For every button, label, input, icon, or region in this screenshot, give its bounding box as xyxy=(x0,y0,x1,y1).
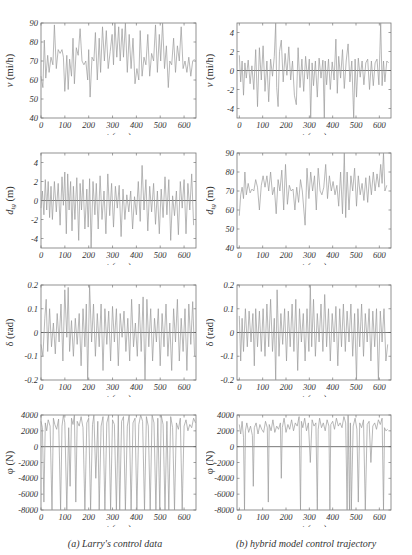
x-tick-label: 600 xyxy=(178,120,192,130)
y-tick-label: -4 xyxy=(31,234,39,244)
y-tick-label: 80 xyxy=(226,167,235,177)
y-tick-label: -8000 xyxy=(214,505,235,515)
x-tick-label: 500 xyxy=(350,250,364,260)
x-tick-label: 400 xyxy=(130,250,144,260)
data-series xyxy=(41,415,196,510)
chart-svg: -4-20240100200300400500600t (sec)dtg (m) xyxy=(0,130,206,265)
x-tick-label: 0 xyxy=(237,250,242,260)
y-axis-label: v (mi/h) xyxy=(206,53,216,87)
y-tick-label: 80 xyxy=(30,37,39,47)
chart-v-hybrid: -4-20240100200300400500600t (sec)v (mi/h… xyxy=(206,0,412,135)
x-tick-label: 500 xyxy=(350,120,364,130)
y-axis-label: δ (rad) xyxy=(4,318,16,346)
y-tick-label: -2000 xyxy=(18,458,39,468)
chart-svg: -0.2-0.100.10.20100200300400500600t (sec… xyxy=(206,262,412,397)
y-tick-label: 4 xyxy=(230,28,235,38)
x-tick-label: 100 xyxy=(58,120,72,130)
x-tick-label: 0 xyxy=(237,120,242,130)
x-tick-label: 600 xyxy=(373,512,387,522)
x-tick-label: 500 xyxy=(154,120,168,130)
x-tick-label: 200 xyxy=(280,382,294,392)
x-tick-label: 0 xyxy=(237,382,242,392)
y-tick-label: -0.1 xyxy=(221,351,234,361)
x-tick-label: 200 xyxy=(82,382,96,392)
x-axis-label: t (sec) xyxy=(106,523,131,527)
x-tick-label: 100 xyxy=(58,382,72,392)
data-series xyxy=(41,23,195,97)
x-tick-label: 0 xyxy=(39,382,44,392)
x-tick-label: 100 xyxy=(256,512,270,522)
chart-svg: 4050607080900100200300400500600t (sec)dt… xyxy=(206,130,412,265)
x-tick-label: 500 xyxy=(154,512,168,522)
x-tick-label: 400 xyxy=(130,512,144,522)
y-tick-label: 0 xyxy=(34,328,39,338)
y-tick-label: 2000 xyxy=(21,426,39,436)
x-tick-label: 500 xyxy=(350,512,364,522)
y-tick-label: 4000 xyxy=(21,410,39,420)
y-tick-label: -4 xyxy=(227,104,235,114)
x-tick-label: 200 xyxy=(82,512,96,522)
data-series xyxy=(41,165,194,248)
x-tick-label: 100 xyxy=(256,382,270,392)
x-tick-label: 600 xyxy=(373,382,387,392)
y-tick-label: 0 xyxy=(230,442,235,452)
x-tick-label: 300 xyxy=(302,382,317,392)
y-tick-label: 50 xyxy=(226,224,235,234)
y-tick-label: 0 xyxy=(230,328,235,338)
x-tick-label: 400 xyxy=(130,382,144,392)
y-tick-label: 2 xyxy=(230,47,235,57)
x-tick-label: 0 xyxy=(39,120,44,130)
x-tick-label: 400 xyxy=(326,120,340,130)
data-series xyxy=(239,415,387,510)
y-tick-label: -0.2 xyxy=(25,375,39,385)
x-tick-label: 200 xyxy=(280,120,294,130)
x-tick-label: 400 xyxy=(326,382,340,392)
y-tick-label: 60 xyxy=(226,205,235,215)
data-series xyxy=(239,153,386,225)
caption-left: (a) Larry's control data xyxy=(0,538,230,549)
chart-delta-hybrid: -0.2-0.100.10.20100200300400500600t (sec… xyxy=(206,262,412,397)
x-tick-label: 200 xyxy=(82,120,96,130)
x-axis-label: t (sec) xyxy=(302,523,327,527)
chart-v-larry: 4050607080900100200300400500600t (sec)v … xyxy=(0,0,206,135)
plot-frame xyxy=(237,415,391,510)
y-tick-label: 90 xyxy=(226,148,235,158)
y-axis-label: dtg (m) xyxy=(4,186,17,215)
x-tick-label: 100 xyxy=(256,250,270,260)
x-tick-label: 200 xyxy=(280,512,294,522)
y-tick-label: 50 xyxy=(30,94,39,104)
x-tick-label: 500 xyxy=(154,250,168,260)
y-tick-label: 0.2 xyxy=(27,280,38,290)
x-tick-label: 300 xyxy=(302,120,317,130)
y-tick-label: 70 xyxy=(226,186,235,196)
y-tick-label: 2000 xyxy=(217,426,235,436)
chart-svg: -0.2-0.100.10.20100200300400500600t (sec… xyxy=(0,262,206,397)
y-tick-label: 90 xyxy=(30,18,39,28)
x-tick-label: 500 xyxy=(350,382,364,392)
chart-dtg-larry: -4-20240100200300400500600t (sec)dtg (m) xyxy=(0,130,206,265)
y-tick-label: 2 xyxy=(34,177,39,187)
y-tick-label: 0.1 xyxy=(27,304,38,314)
chart-delta-larry: -0.2-0.100.10.20100200300400500600t (sec… xyxy=(0,262,206,397)
y-tick-label: 0 xyxy=(34,442,39,452)
y-tick-label: -2 xyxy=(227,85,235,95)
caption-right: (b) hybrid model control trajectory xyxy=(206,538,406,549)
x-tick-label: 0 xyxy=(237,512,242,522)
y-tick-label: 40 xyxy=(30,113,39,123)
chart-phi-larry: -8000-6000-4000-200002000400001002003004… xyxy=(0,392,206,527)
y-tick-label: -4000 xyxy=(214,473,235,483)
x-tick-label: 0 xyxy=(39,512,44,522)
y-tick-label: 0.2 xyxy=(223,280,234,290)
y-tick-label: -0.2 xyxy=(221,375,235,385)
x-tick-label: 400 xyxy=(326,250,340,260)
y-tick-label: 40 xyxy=(226,243,235,253)
y-tick-label: 70 xyxy=(30,56,39,66)
x-tick-label: 600 xyxy=(178,250,192,260)
x-tick-label: 300 xyxy=(105,120,120,130)
x-tick-label: 600 xyxy=(178,382,192,392)
y-tick-label: -2000 xyxy=(214,458,235,468)
y-axis-label: dtg (m) xyxy=(206,186,217,215)
y-tick-label: -0.1 xyxy=(25,351,38,361)
y-tick-label: -6000 xyxy=(18,489,39,499)
y-tick-label: 60 xyxy=(30,75,39,85)
